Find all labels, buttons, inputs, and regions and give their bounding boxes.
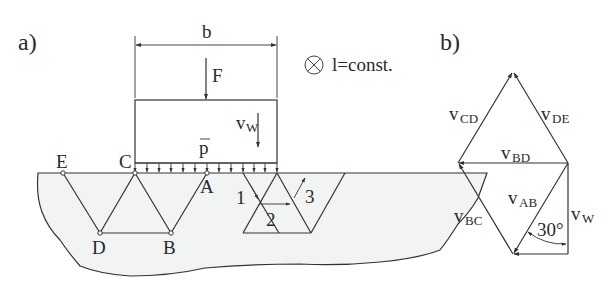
svg-text:v: v [508, 187, 518, 208]
angle-label: 30° [537, 219, 564, 240]
vab-label: v AB [508, 187, 537, 210]
vcd-label: v CD [449, 103, 478, 126]
pressure-p: p [199, 137, 210, 158]
svg-text:v: v [571, 203, 581, 224]
svg-text:BD: BD [512, 150, 530, 165]
panel-a-label: a) [18, 29, 37, 55]
node-b [169, 231, 173, 235]
panel-b-label: b) [440, 29, 460, 55]
mechanism-label-3: 3 [305, 186, 315, 207]
width-label: b [202, 21, 212, 42]
node-label-c: C [119, 151, 132, 172]
svg-text:W: W [582, 211, 595, 226]
node-a [205, 171, 209, 175]
svg-text:v: v [454, 205, 464, 226]
svg-text:W: W [246, 120, 259, 135]
svg-text:v: v [541, 103, 551, 124]
svg-text:v: v [236, 112, 246, 133]
l-const-label: l=const. [332, 54, 393, 75]
node-label-a: A [200, 176, 214, 197]
mechanism-label-2: 2 [266, 209, 276, 230]
vbd-label: v BD [501, 142, 530, 165]
node-label-e: E [56, 151, 68, 172]
svg-text:v: v [501, 142, 511, 163]
vw-label: v W [571, 203, 595, 226]
force-label: F [212, 65, 223, 86]
svg-text:CD: CD [460, 111, 478, 126]
node-label-d: D [92, 237, 106, 258]
panel-a: a) b F l=const. v W [18, 21, 487, 276]
svg-text:p: p [199, 137, 209, 158]
svg-text:DE: DE [552, 111, 569, 126]
out-of-plane-note: l=const. [305, 54, 393, 75]
collapse-mechanism-figure: a) b F l=const. v W [0, 0, 611, 284]
node-label-b: B [163, 237, 176, 258]
svg-text:AB: AB [519, 195, 537, 210]
vde-label: v DE [541, 103, 569, 126]
svg-text:BC: BC [465, 213, 482, 228]
node-c [133, 171, 137, 175]
node-d [98, 231, 102, 235]
panel-b-hodograph: b) v CD v DE v BD v BC v AB [440, 29, 595, 254]
svg-text:v: v [449, 103, 459, 124]
mechanism-label-1: 1 [236, 187, 246, 208]
force-f: F [206, 58, 223, 99]
